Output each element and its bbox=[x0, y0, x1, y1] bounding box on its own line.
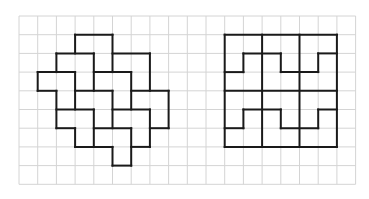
tessellation-diagram bbox=[0, 0, 369, 199]
diagram-canvas bbox=[0, 0, 369, 199]
left-tessellation-figure bbox=[38, 35, 169, 166]
grid-paper bbox=[19, 16, 356, 184]
